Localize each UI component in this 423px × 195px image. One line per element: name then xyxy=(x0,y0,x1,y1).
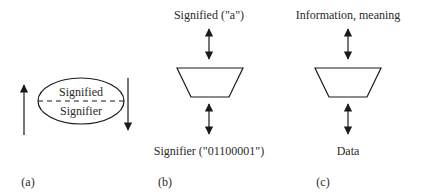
panel-b: Signified ("a") Signifier ("01100001") (… xyxy=(154,8,264,189)
panel-c-label: (c) xyxy=(316,175,329,189)
data-text: Data xyxy=(337,144,360,158)
trapezoid-shape xyxy=(315,68,381,97)
panel-c: Information, meaning Data (c) xyxy=(296,8,401,189)
panel-b-label: (b) xyxy=(158,175,172,189)
information-meaning-text: Information, meaning xyxy=(296,8,401,22)
signifier-binary-text: Signifier ("01100001") xyxy=(154,144,264,158)
panel-a: Signified Signifier (a) xyxy=(21,78,128,189)
panel-a-label: (a) xyxy=(21,175,34,189)
signified-text: Signified xyxy=(59,85,103,99)
signifier-text: Signifier xyxy=(60,104,102,118)
signified-a-text: Signified ("a") xyxy=(174,8,244,22)
diagram-canvas: Signified Signifier (a) Signified ("a") … xyxy=(0,0,423,195)
trapezoid-shape xyxy=(177,68,243,97)
